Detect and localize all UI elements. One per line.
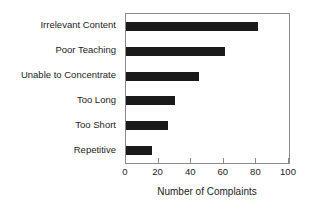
x-axis-tick bbox=[288, 158, 289, 163]
bar bbox=[126, 121, 168, 130]
x-axis-tick bbox=[125, 158, 126, 163]
y-axis-category-label: Irrelevant Content bbox=[40, 19, 116, 31]
y-axis-category-label: Repetitive bbox=[74, 144, 116, 156]
bar bbox=[126, 47, 225, 56]
bar-series bbox=[126, 14, 289, 163]
y-axis-category-label: Unable to Concentrate bbox=[21, 69, 116, 81]
y-axis-category-label: Poor Teaching bbox=[55, 44, 116, 56]
bar bbox=[126, 96, 175, 105]
bar bbox=[126, 146, 152, 155]
y-axis-category-labels: Irrelevant ContentPoor TeachingUnable to… bbox=[0, 13, 120, 162]
x-axis-tick bbox=[255, 158, 256, 163]
plot-area bbox=[125, 13, 290, 164]
y-axis-category-label: Too Short bbox=[75, 119, 116, 131]
bar-chart: Irrelevant ContentPoor TeachingUnable to… bbox=[0, 0, 312, 212]
bar bbox=[126, 72, 199, 81]
y-axis-category-label: Too Long bbox=[77, 94, 116, 106]
x-axis-tick bbox=[158, 158, 159, 163]
x-axis-title: Number of Complaints bbox=[125, 185, 289, 198]
x-axis-tick-label: 40 bbox=[185, 166, 196, 178]
x-axis-tick bbox=[190, 158, 191, 163]
bar bbox=[126, 22, 258, 31]
x-axis-tick-label: 60 bbox=[218, 166, 229, 178]
x-axis-tick bbox=[223, 158, 224, 163]
x-axis-tick-label: 20 bbox=[152, 166, 163, 178]
x-axis-tick-label: 80 bbox=[250, 166, 261, 178]
x-axis-tick-labels: 020406080100 bbox=[125, 166, 289, 180]
x-axis-tick-label: 0 bbox=[122, 166, 127, 178]
x-axis-tick-label: 100 bbox=[280, 166, 296, 178]
